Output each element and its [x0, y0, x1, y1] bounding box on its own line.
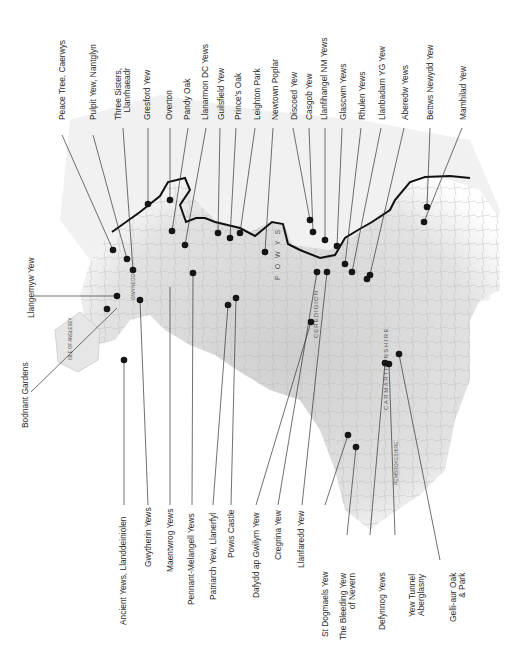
label-rhulen-yews: Rhulen Yews: [358, 72, 367, 120]
region-label-carmarthenshire: CARMARTHENSHIRE: [383, 327, 389, 410]
label-powis-castle: Powis Castle: [227, 510, 236, 558]
region-label-pembrokeshire: PEMBROKESHIRE: [393, 441, 399, 485]
label-bleeding-yew-nevern: The Bleeding Yew of Nevern: [339, 573, 357, 640]
region-label-powys: POWYS: [274, 224, 281, 280]
label-cregrina-yew: Cregrina Yew: [274, 510, 283, 560]
label-three-sisters-llanrhaeadr: Three Sisters, Llanrhaeadr: [114, 68, 132, 120]
label-peace-tree-caerwys: Peace Tree, Caerwys: [58, 40, 67, 120]
label-glascwm-yews: Glascwm Yews: [339, 64, 348, 120]
label-gresford-yew: Gresford Yew: [143, 70, 152, 120]
label-pulpit-yew-nantglyn: Pulpit Yew, Nantglyn: [89, 44, 98, 120]
label-guilsfield-yew: Guilsfield Yew: [217, 68, 226, 120]
label-bettws-newydd-yew: Bettws Newydd Yew: [426, 45, 435, 120]
label-discoed-yew: Discoed Yew: [290, 72, 299, 120]
label-bodnant-gardens: Bodnant Gardens: [21, 362, 30, 428]
label-pandy-oak: Pandy Oak: [183, 79, 192, 120]
label-overton: Overton: [165, 90, 174, 120]
label-princes-oak: Prince's Oak: [234, 73, 243, 120]
label-llanarmon-dc-yews: Llanarmon DC Yews: [201, 44, 210, 120]
label-llanfihangel-nm-yews: Llanfihangel NM Yews: [320, 38, 329, 120]
label-pennant-melangell-yews: Pennant-Melangell Yews: [187, 513, 196, 605]
label-leighton-park: Leighton Park: [253, 68, 262, 120]
label-yew-tunnel-aberglasny: Yew Tunnel Aberglasny: [408, 574, 426, 617]
region-label-ceredigion: CEREDIGION: [313, 290, 319, 338]
map-canvas: POWYS CEREDIGION CARMARTHENSHIRE PEMBROK…: [0, 0, 530, 658]
label-gelli-aur-oak-park: Gelli-aur Oak & Park: [449, 573, 467, 622]
region-label-gwynedd: GWYNEDD: [130, 274, 136, 301]
label-gwytherin-yews: Gwytherin Yews: [144, 507, 153, 567]
label-aberedw-yews: Aberedw Yews: [401, 65, 410, 120]
label-mamhilad-yew: Mamhilad Yew: [459, 66, 468, 120]
label-llanfaredd-yew: Llanfaredd Yew: [297, 511, 306, 568]
label-llangernyw-yew: Llangernyw Yew: [27, 257, 36, 318]
label-llanbadarn-yg-yew: Llanbadarn YG Yew: [378, 46, 387, 120]
label-st-dogmaels-yew: St Dogmaels Yew: [321, 571, 330, 637]
label-newtown-poplar: Newtown Poplar: [271, 59, 280, 120]
label-ancient-yews-llanddeiniolen: Ancient Yews, Llanddeiniolen: [119, 517, 128, 626]
label-defynnog-yews: Defynnog Yews: [378, 572, 387, 630]
yew-sites-map: POWYS CEREDIGION CARMARTHENSHIRE PEMBROK…: [0, 0, 530, 658]
label-patriarch-yew-llanerfyl: Patriarch Yew, Llanerfyl: [209, 513, 218, 600]
label-casgob-yew: Casgob Yew: [305, 73, 314, 120]
label-maentwrog-yews: Maentwrog Yews: [166, 509, 175, 572]
label-dafydd-ap-gwilym-yew: Dafydd ap Gwilym Yew: [252, 512, 261, 598]
